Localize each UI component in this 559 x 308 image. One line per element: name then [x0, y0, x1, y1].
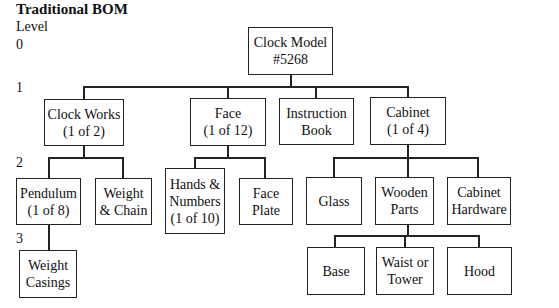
node-clock-works: Clock Works (1 of 2) — [44, 99, 124, 146]
connector — [334, 235, 336, 247]
node-pendulum: Pendulum (1 of 8) — [16, 178, 81, 225]
connector — [333, 157, 335, 178]
level-label: Level — [16, 19, 48, 35]
connector — [404, 235, 406, 247]
connector — [407, 157, 409, 178]
connector — [478, 235, 480, 247]
node-hands-numbers: Hands & Numbers (1 of 10) — [165, 168, 225, 234]
node-cabinet-hardware: Cabinet Hardware — [447, 177, 511, 225]
node-glass: Glass — [306, 177, 362, 225]
connector — [48, 224, 50, 250]
connector — [122, 157, 124, 178]
node-waist-tower: Waist or Tower — [376, 247, 434, 295]
node-hood: Hood — [447, 247, 512, 295]
node-weight-casings: Weight Casings — [19, 250, 77, 298]
connector — [334, 235, 480, 237]
connector — [333, 157, 479, 159]
connector — [83, 86, 85, 99]
connector — [83, 86, 408, 88]
node-clock-model: Clock Model #5268 — [248, 27, 333, 75]
connector — [477, 157, 479, 178]
diagram-title: Traditional BOM — [16, 1, 128, 18]
node-instruction-book: Instruction Book — [279, 98, 354, 145]
connector — [48, 157, 124, 159]
level-2-label: 2 — [16, 155, 23, 171]
node-wooden-parts: Wooden Parts — [375, 177, 434, 225]
connector — [194, 157, 196, 168]
node-base: Base — [307, 247, 365, 295]
node-face-plate: Face Plate — [239, 178, 293, 225]
connector — [264, 157, 266, 178]
node-face: Face (1 of 12) — [190, 98, 266, 146]
node-weight-chain: Weight & Chain — [95, 178, 152, 225]
connector — [194, 157, 266, 159]
level-3-label: 3 — [16, 231, 23, 247]
level-1-label: 1 — [16, 80, 23, 96]
connector — [48, 157, 50, 178]
node-cabinet: Cabinet (1 of 4) — [370, 97, 446, 145]
level-0-label: 0 — [16, 37, 23, 53]
